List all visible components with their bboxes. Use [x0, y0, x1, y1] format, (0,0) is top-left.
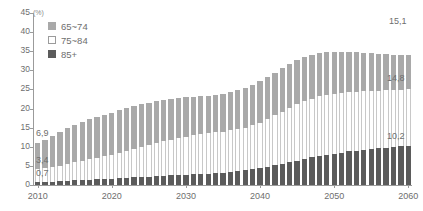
bar-2027[interactable]: [161, 100, 166, 185]
bar-segment-75-84: [243, 128, 248, 171]
bar-segment-85plus: [183, 175, 188, 185]
bar-2052[interactable]: [346, 52, 351, 185]
y-axis-tick-mark-25: [30, 89, 33, 90]
bar-segment-65-74: [168, 99, 173, 140]
bar-2037[interactable]: [235, 90, 240, 185]
bar-2016[interactable]: [80, 122, 85, 185]
bar-2047[interactable]: [309, 55, 314, 185]
legend-item-75-84[interactable]: 75~84: [48, 34, 88, 46]
bar-segment-85plus: [406, 146, 411, 185]
bar-segment-75-84: [72, 162, 77, 180]
bar-segment-85plus: [117, 178, 122, 185]
bar-2030[interactable]: [183, 97, 188, 185]
bar-segment-65-74: [369, 53, 374, 91]
bar-2012[interactable]: [50, 136, 55, 185]
bar-segment-85plus: [346, 151, 351, 185]
bar-2044[interactable]: [287, 64, 292, 185]
bar-segment-85plus: [191, 174, 196, 185]
bar-segment-85plus: [317, 156, 322, 185]
x-axis-tick-2050: 2050: [314, 191, 354, 201]
bar-2029[interactable]: [176, 98, 181, 185]
x-axis-tick-mark-2050: [334, 185, 335, 188]
y-axis-tick-labels: 454035302520151050: [0, 0, 30, 211]
bar-2045[interactable]: [294, 60, 299, 185]
bar-2038[interactable]: [243, 88, 248, 185]
bar-2019[interactable]: [102, 115, 107, 185]
bar-2041[interactable]: [265, 77, 270, 185]
y-axis-tick-20: 20: [6, 104, 30, 113]
bar-segment-85plus: [72, 180, 77, 185]
bar-segment-85plus: [398, 146, 403, 185]
x-axis-tick-2040: 2040: [240, 191, 280, 201]
bar-2056[interactable]: [376, 54, 381, 185]
bar-segment-85plus: [146, 177, 151, 185]
bar-2036[interactable]: [228, 92, 233, 185]
bar-2034[interactable]: [213, 95, 218, 185]
bar-segment-75-84: [146, 145, 151, 176]
legend-swatch-85plus: [48, 50, 56, 58]
legend-item-65-74[interactable]: 65~74: [48, 20, 88, 32]
bar-segment-65-74: [213, 95, 218, 132]
bar-2014[interactable]: [65, 128, 70, 185]
x-axis-tick-mark-2060: [408, 185, 409, 188]
bar-2024[interactable]: [139, 104, 144, 185]
bar-2046[interactable]: [302, 57, 307, 185]
y-axis-tick-mark-10: [30, 147, 33, 148]
bar-2015[interactable]: [72, 125, 77, 185]
bar-segment-65-74: [139, 104, 144, 147]
bar-2053[interactable]: [354, 52, 359, 185]
bar-2032[interactable]: [198, 96, 203, 185]
bar-segment-75-84: [339, 93, 344, 153]
bar-segment-85plus: [65, 181, 70, 185]
bar-segment-65-74: [154, 101, 159, 143]
bar-segment-75-84: [272, 115, 277, 165]
bar-2054[interactable]: [361, 53, 366, 185]
bar-segment-65-74: [272, 73, 277, 116]
y-axis-tick-40: 40: [6, 27, 30, 36]
bar-2022[interactable]: [124, 108, 129, 185]
bar-segment-75-84: [57, 166, 62, 181]
bar-segment-65-74: [198, 96, 203, 134]
bar-segment-75-84: [354, 92, 359, 151]
bar-segment-65-74: [332, 52, 337, 94]
bar-segment-85plus: [332, 154, 337, 185]
bar-2018[interactable]: [94, 117, 99, 185]
bar-segment-65-74: [317, 53, 322, 96]
bar-segment-75-84: [50, 167, 55, 182]
bar-segment-65-74: [191, 97, 196, 136]
bar-2051[interactable]: [339, 52, 344, 185]
bar-2048[interactable]: [317, 53, 322, 185]
legend-label-65-74: 65~74: [61, 21, 88, 32]
bar-2021[interactable]: [117, 110, 122, 185]
y-axis-tick-mark-0: [30, 185, 33, 186]
bar-2060[interactable]: [406, 55, 411, 185]
bar-2020[interactable]: [109, 113, 114, 185]
bar-2025[interactable]: [146, 103, 151, 185]
bar-2043[interactable]: [280, 68, 285, 185]
y-axis-tick-15: 15: [6, 123, 30, 132]
x-axis-tick-mark-2020: [112, 185, 113, 188]
bar-2033[interactable]: [206, 96, 211, 185]
bar-2026[interactable]: [154, 101, 159, 185]
bar-segment-65-74: [131, 106, 136, 149]
bar-2023[interactable]: [131, 106, 136, 185]
bar-2049[interactable]: [324, 52, 329, 185]
bar-2040[interactable]: [257, 81, 262, 185]
bar-2055[interactable]: [369, 53, 374, 185]
bar-2028[interactable]: [168, 99, 173, 185]
bar-segment-85plus: [324, 155, 329, 185]
bar-segment-85plus: [369, 149, 374, 185]
bar-segment-75-84: [124, 151, 129, 178]
bar-2017[interactable]: [87, 119, 92, 185]
bar-2042[interactable]: [272, 73, 277, 185]
y-axis-tick-0: 0: [6, 180, 30, 189]
legend-label-85plus: 85+: [61, 49, 77, 60]
bar-2039[interactable]: [250, 85, 255, 185]
legend-item-85plus[interactable]: 85+: [48, 48, 88, 60]
bar-segment-65-74: [72, 125, 77, 163]
bar-2013[interactable]: [57, 132, 62, 186]
bar-2031[interactable]: [191, 97, 196, 185]
bar-2050[interactable]: [332, 52, 337, 185]
bar-2035[interactable]: [220, 94, 225, 185]
y-axis-tick-10: 10: [6, 142, 30, 151]
